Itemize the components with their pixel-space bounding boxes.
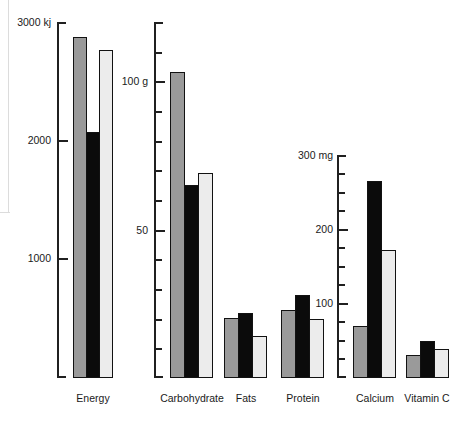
bar-protein-series-3 [309, 319, 324, 378]
axis-kj-label-3000: 3000 kj [0, 17, 51, 27]
bar-carbohydrate-series-1 [170, 72, 185, 378]
axis-g-bottom-cap [156, 376, 163, 378]
cat-label-vitamin-c: Vitamin C [391, 392, 456, 404]
cat-label-energy: Energy [53, 392, 133, 404]
axis-kj-line [57, 22, 59, 378]
axis-g-tick-70 [156, 170, 162, 172]
axis-mg-tick-100 [339, 303, 348, 305]
axis-kj-label-1000: 1000 [0, 253, 51, 263]
bar-calcium-series-2 [367, 181, 382, 378]
axis-g-tick-100 [156, 81, 165, 83]
axis-g-tick-20 [156, 319, 162, 321]
axis-mg-tick-275 [339, 173, 345, 175]
axis-mg-tick-250 [339, 192, 345, 194]
bar-vitamin-c-series-2 [420, 341, 435, 378]
axis-mg-tick-200 [339, 229, 348, 231]
axis-mg-top-cap [339, 155, 346, 157]
axis-kj-bottom-cap [59, 376, 66, 378]
axis-mg-tick-25 [339, 358, 345, 360]
axis-kj-tick-1000 [59, 258, 68, 260]
cat-label-fats: Fats [216, 392, 276, 404]
axis-g-tick-80 [156, 141, 162, 143]
axis-g-label-100: 100 g [96, 76, 148, 86]
axis-g-top-cap [156, 22, 163, 24]
axis-mg-label-200: 200 [275, 224, 333, 234]
nutrition-bar-chart: 3000 kj 2000 1000 Energy 100 g 50 Carboh… [0, 0, 456, 427]
bar-carbohydrate-series-2 [184, 185, 199, 378]
axis-g-tick-60 [156, 200, 162, 202]
axis-g-tick-90 [156, 111, 162, 113]
bar-calcium-series-1 [353, 326, 368, 378]
axis-mg-tick-150 [339, 266, 345, 268]
axis-g-tick-50 [156, 230, 165, 232]
axis-g-tick-110 [156, 52, 162, 54]
bar-energy-series-1 [73, 37, 87, 378]
cat-label-protein: Protein [272, 392, 334, 404]
axis-g-tick-30 [156, 289, 162, 291]
bar-calcium-series-3 [381, 250, 396, 378]
axis-mg-tick-50 [339, 340, 345, 342]
bar-fats-series-3 [252, 336, 267, 378]
page-edge-artifact-bottom [0, 212, 10, 213]
axis-mg-tick-125 [339, 284, 345, 286]
axis-mg-label-300: 300 mg [275, 150, 333, 160]
axis-mg-tick-225 [339, 210, 345, 212]
bar-fats-series-1 [224, 318, 239, 378]
axis-g-tick-40 [156, 259, 162, 261]
bar-energy-series-3 [99, 50, 113, 378]
bar-protein-series-1 [281, 310, 296, 378]
axis-kj-tick-2000 [59, 140, 68, 142]
axis-mg-label-100: 100 [275, 298, 333, 308]
axis-kj-top-cap [59, 22, 66, 24]
axis-kj-label-2000: 2000 [0, 135, 51, 145]
axis-mg-tick-175 [339, 247, 345, 249]
axis-g-tick-10 [156, 348, 162, 350]
axis-g-label-50: 50 [96, 225, 148, 235]
bar-vitamin-c-series-1 [406, 355, 421, 378]
bar-vitamin-c-series-3 [434, 349, 449, 378]
bar-fats-series-2 [238, 313, 253, 378]
axis-mg-bottom-cap [339, 376, 346, 378]
page-edge-artifact-left [8, 0, 9, 213]
bar-energy-series-2 [86, 132, 100, 378]
bar-carbohydrate-series-3 [198, 173, 213, 378]
axis-mg-tick-75 [339, 321, 345, 323]
